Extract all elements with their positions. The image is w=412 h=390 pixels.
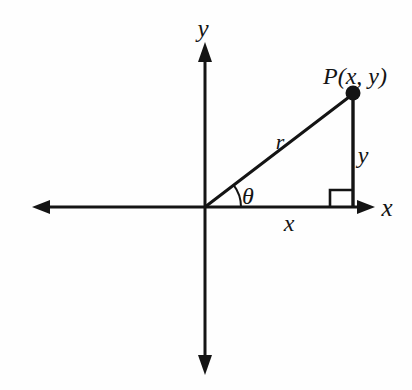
point-label-p: P(x, y) (323, 64, 387, 88)
radius-label: r (276, 131, 285, 153)
diagram-canvas (0, 0, 412, 390)
x-axis-right-arrowhead (357, 200, 375, 214)
horizontal-leg-label: x (284, 211, 295, 235)
y-axis-bottom-arrowhead (198, 355, 212, 375)
x-axis-label: x (381, 195, 392, 220)
y-axis-label: y (197, 16, 208, 41)
right-angle-icon (330, 190, 352, 208)
x-axis-left-arrowhead (32, 200, 50, 214)
polar-coordinates-diagram: y x P(x, y) r θ y x (0, 0, 412, 390)
vertical-leg-label: y (358, 143, 369, 167)
y-axis-top-arrowhead (198, 42, 212, 62)
angle-label-theta: θ (242, 184, 254, 208)
angle-arc (234, 185, 242, 207)
